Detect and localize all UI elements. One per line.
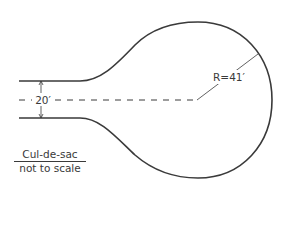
radius-label: R=41′ (213, 71, 245, 83)
width-label: 20′ (35, 94, 51, 106)
caption: Cul-de-sac not to scale (14, 148, 86, 175)
caption-subtitle: not to scale (14, 162, 86, 175)
caption-title: Cul-de-sac (14, 148, 86, 162)
